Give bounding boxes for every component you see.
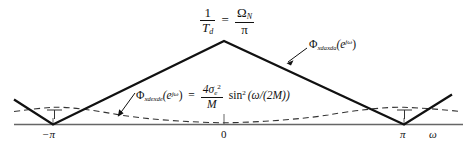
noise-spectrum-equation: Φxdexde(ejω) = 4σe2 M sin2(ω/(2M)) bbox=[136, 83, 290, 111]
annotation-arrow-noise bbox=[118, 93, 135, 117]
power-spectrum-figure: 1 Td = ΩN π Φxdaxda(ejω) Φxdexde(ejω) = … bbox=[0, 0, 463, 146]
tick-label-pi: π bbox=[400, 128, 406, 140]
vertex-marker-neg-pi bbox=[47, 110, 62, 119]
annotation-arrow-signal bbox=[287, 48, 308, 66]
top-eq-equals: = bbox=[222, 12, 229, 27]
fraction-4sigma-over-M: 4σe2 M bbox=[201, 83, 223, 111]
noise-eq-equals: = bbox=[188, 89, 195, 101]
tick-label-neg-pi: −π bbox=[42, 128, 55, 140]
noise-eq-sin-group: sin2(ω/(2M)) bbox=[229, 89, 290, 101]
noise-eq-sin-sup: 2 bbox=[242, 90, 246, 98]
vertex-marker-pi bbox=[397, 110, 412, 119]
top-eq-num2-sub: N bbox=[247, 12, 252, 21]
top-eq-den2: π bbox=[235, 22, 254, 37]
noise-eq-sin: sin bbox=[229, 89, 242, 101]
tick-label-zero: 0 bbox=[221, 128, 227, 140]
noise-eq-num: 4σe2 bbox=[201, 83, 223, 97]
noise-eq-num-sup: 2 bbox=[217, 83, 221, 91]
top-eq-den1: Td bbox=[200, 20, 215, 37]
top-eq-den1-sub: d bbox=[209, 27, 213, 36]
signal-arg-open: (e bbox=[336, 38, 345, 50]
signal-spectrum-label: Φxdaxda(ejω) bbox=[309, 39, 356, 52]
noise-eq-sin-arg: (ω/(2M)) bbox=[248, 89, 290, 101]
signal-arg-close: ) bbox=[352, 38, 356, 50]
fraction-omegaN-over-pi: ΩN π bbox=[235, 6, 254, 36]
axis-label-omega: ω bbox=[429, 128, 437, 140]
noise-arg-exp: jω bbox=[172, 90, 179, 98]
noise-arg-open: (e bbox=[163, 89, 172, 101]
top-eq-num1: 1 bbox=[200, 6, 215, 20]
noise-eq-den: M bbox=[201, 97, 223, 110]
peak-value-equation: 1 Td = ΩN π bbox=[200, 6, 254, 36]
top-eq-num2: ΩN bbox=[235, 6, 254, 22]
noise-arg-close: ) bbox=[179, 89, 183, 101]
fraction-one-over-Td: 1 Td bbox=[200, 6, 215, 36]
